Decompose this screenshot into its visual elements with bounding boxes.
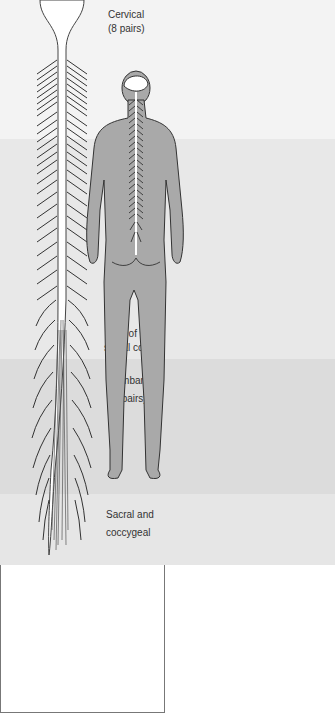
- right-label-end-of-cord-1: End of: [108, 327, 137, 340]
- right-label-thoracic: Thoracic: [110, 156, 148, 169]
- right-label-lumbar-count: (5 pairs): [110, 392, 147, 405]
- right-spinal-cord-panel: Cervical (8 pairs) Thoracic (12 pairs) E…: [0, 146, 165, 713]
- spinal-cord-illustration: [0, 146, 163, 565]
- right-label-lumbar: Lumbar: [110, 374, 144, 387]
- right-label-sacral-1: Sacral and: [106, 508, 154, 521]
- right-label-end-of-cord-2: spinal cord: [104, 341, 152, 354]
- right-label-sacral-2: coccygeal: [106, 526, 150, 539]
- right-label-thoracic-count: (12 pairs): [110, 174, 152, 187]
